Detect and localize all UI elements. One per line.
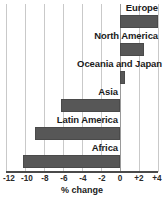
x-tick-label: -10: [21, 174, 33, 183]
plot-area: Europe North America Oceania and Japan A…: [0, 0, 164, 172]
bar-north-america: [120, 43, 144, 56]
bar-label-oceania-and-japan: Oceania and Japan: [38, 59, 162, 69]
gridline: [63, 4, 64, 172]
gridline: [44, 4, 45, 172]
bar-label-asia: Asia: [80, 87, 118, 97]
bar-europe: [120, 15, 158, 28]
bar-asia: [61, 99, 120, 112]
x-tick-label: -6: [60, 174, 67, 183]
x-tick-label: -8: [41, 174, 48, 183]
bar-label-latin-america: Latin America: [28, 115, 118, 125]
x-tick-label: -12: [3, 174, 15, 183]
x-axis-label: % change: [0, 185, 164, 195]
bar-africa: [23, 155, 120, 168]
bar-label-africa: Africa: [68, 143, 118, 153]
x-tick-label: 0: [118, 174, 123, 183]
x-tick-label: -4: [79, 174, 86, 183]
bar-label-europe: Europe: [78, 3, 158, 13]
x-tick-label: +4: [152, 174, 161, 183]
bar-oceania-and-japan: [120, 71, 125, 84]
gridline: [6, 4, 7, 172]
x-axis-line: [6, 171, 158, 173]
x-tick-label: +2: [134, 174, 143, 183]
gridline: [25, 4, 26, 172]
bar-latin-america: [35, 127, 120, 140]
bar-label-north-america: North America: [48, 31, 158, 41]
x-tick-label: -2: [98, 174, 105, 183]
bar-chart: Europe North America Oceania and Japan A…: [0, 0, 164, 200]
gridline: [158, 4, 159, 172]
